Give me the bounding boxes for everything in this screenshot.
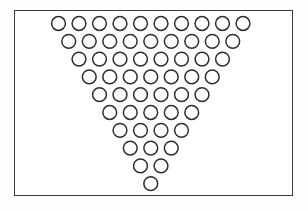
circle-marker	[175, 17, 189, 31]
circle-marker	[144, 34, 158, 48]
circle-marker	[123, 70, 137, 84]
circle-marker	[123, 34, 137, 48]
circle-marker	[154, 17, 168, 31]
circle-marker	[195, 17, 209, 31]
circle-marker	[164, 141, 178, 155]
circle-marker	[154, 123, 168, 137]
circle-marker	[144, 70, 158, 84]
circle-marker	[134, 123, 148, 137]
circle-marker	[205, 70, 219, 84]
circle-marker	[123, 141, 137, 155]
circle-marker	[103, 106, 117, 120]
circle-marker	[164, 70, 178, 84]
circle-marker	[185, 70, 199, 84]
circle-marker	[144, 177, 158, 191]
circle-marker	[103, 34, 117, 48]
circle-marker	[72, 17, 86, 31]
circle-row	[62, 34, 240, 48]
circle-marker	[144, 106, 158, 120]
circle-marker	[134, 88, 148, 102]
circle-marker	[134, 52, 148, 66]
circle-marker	[113, 123, 127, 137]
circle-marker	[185, 34, 199, 48]
circle-marker	[134, 159, 148, 173]
circle-marker	[236, 17, 250, 31]
circle-marker	[113, 88, 127, 102]
circle-marker	[93, 17, 107, 31]
circle-marker	[62, 34, 76, 48]
circle-marker	[175, 88, 189, 102]
circle-triangle-figure	[0, 0, 308, 211]
circle-row	[52, 17, 250, 31]
circle-marker	[93, 52, 107, 66]
circle-marker	[134, 17, 148, 31]
circle-marker	[93, 88, 107, 102]
circle-row	[123, 141, 178, 155]
circle-marker	[113, 17, 127, 31]
circle-marker	[123, 106, 137, 120]
circle-marker	[195, 88, 209, 102]
circle-row	[144, 177, 158, 191]
circle-marker	[82, 34, 96, 48]
circle-row	[134, 159, 168, 173]
circle-marker	[175, 123, 189, 137]
circle-marker	[72, 52, 86, 66]
circle-marker	[226, 34, 240, 48]
circle-marker	[82, 70, 96, 84]
circle-row	[113, 123, 188, 137]
circle-marker	[164, 106, 178, 120]
circle-marker	[113, 52, 127, 66]
circle-row	[103, 106, 199, 120]
circle-marker	[154, 52, 168, 66]
circle-rows-group	[52, 17, 250, 191]
circle-row	[72, 52, 229, 66]
circle-marker	[185, 106, 199, 120]
diagram-canvas	[0, 0, 308, 211]
circle-marker	[216, 52, 230, 66]
circle-row	[82, 70, 219, 84]
circle-marker	[154, 159, 168, 173]
circle-marker	[175, 52, 189, 66]
circle-marker	[144, 141, 158, 155]
circle-marker	[205, 34, 219, 48]
circle-marker	[154, 88, 168, 102]
circle-marker	[216, 17, 230, 31]
circle-marker	[164, 34, 178, 48]
circle-marker	[52, 17, 66, 31]
circle-marker	[103, 70, 117, 84]
circle-marker	[195, 52, 209, 66]
circle-row	[93, 88, 209, 102]
